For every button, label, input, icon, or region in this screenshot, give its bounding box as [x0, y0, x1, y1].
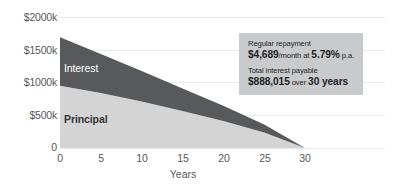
- repayment-rate: 5.79%: [311, 49, 339, 60]
- x-tick-10: 10: [130, 152, 154, 164]
- repayment-rate-suffix: p.a.: [340, 51, 354, 60]
- x-tick-25: 25: [253, 152, 277, 164]
- total-interest-over: over: [290, 78, 308, 87]
- loan-term: 30 years: [308, 76, 348, 87]
- repayment-period: /month at: [279, 51, 312, 60]
- y-tick-500k: $500k: [3, 109, 57, 121]
- principal-area-label: Principal: [64, 113, 107, 125]
- y-tick-1000k: $1000k: [3, 76, 57, 88]
- y-tick-2000k: $2000k: [3, 11, 57, 23]
- loan-summary-callout: Regular repayment $4,689/month at 5.79% …: [239, 33, 363, 95]
- repayment-value: $4,689/month at 5.79% p.a.: [248, 49, 354, 61]
- repayment-caption: Regular repayment: [248, 40, 354, 49]
- x-tick-15: 15: [171, 152, 195, 164]
- repayment-amount: $4,689: [248, 49, 279, 60]
- x-axis-title: Years: [0, 168, 366, 180]
- total-interest-amount: $888,015: [248, 76, 290, 87]
- total-interest-caption: Total interest payable: [248, 67, 354, 76]
- mortgage-amortization-chart: $2000k $1500k $1000k $500k 0 0 5 10 15 2…: [0, 0, 401, 193]
- y-axis: $2000k $1500k $1000k $500k 0: [0, 0, 57, 193]
- x-tick-5: 5: [89, 152, 113, 164]
- y-tick-1500k: $1500k: [3, 44, 57, 56]
- x-tick-20: 20: [212, 152, 236, 164]
- total-interest-value: $888,015 over 30 years: [248, 76, 354, 88]
- x-tick-30: 30: [293, 152, 317, 164]
- chart-plot-area: [0, 0, 401, 193]
- x-tick-0: 0: [48, 152, 72, 164]
- interest-area-label: Interest: [64, 62, 98, 74]
